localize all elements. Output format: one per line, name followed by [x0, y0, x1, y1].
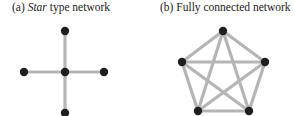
network-edge: [198, 62, 265, 111]
network-node-top: [61, 27, 69, 35]
network-node-bottom: [61, 109, 69, 116]
network-node-right: [100, 68, 108, 76]
fully-connected-network-graph: [178, 27, 269, 115]
network-node-right: [261, 58, 269, 66]
network-diagrams: [0, 0, 295, 116]
network-node-bottom-right: [245, 107, 253, 115]
network-edge: [198, 31, 223, 111]
network-node-left: [20, 68, 28, 76]
network-node-center: [61, 68, 69, 76]
network-node-bottom-left: [194, 107, 202, 115]
network-node-left: [178, 58, 186, 66]
network-edge: [182, 62, 249, 111]
network-node-top: [219, 27, 227, 35]
star-network-graph: [20, 27, 108, 116]
network-edge: [223, 31, 249, 111]
